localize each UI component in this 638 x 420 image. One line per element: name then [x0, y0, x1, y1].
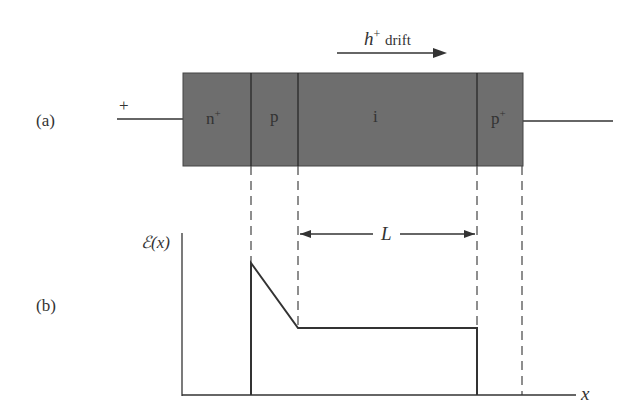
y-axis-label: ℰ(x)	[141, 232, 170, 253]
region-n-plus: n+	[206, 107, 221, 129]
field-profile	[251, 263, 477, 395]
x-axis-label: x	[581, 383, 589, 405]
drift-label: h+ drift	[364, 27, 411, 50]
drift-arrowhead-icon	[433, 48, 447, 58]
diagram-canvas	[0, 0, 638, 420]
region-p-plus: p+	[491, 107, 506, 129]
drift-word: drift	[385, 32, 411, 48]
hole-symbol: h	[364, 28, 374, 49]
hole-charge-sup: +	[374, 27, 381, 41]
region-i: i	[373, 107, 378, 127]
projection-lines	[251, 166, 522, 395]
region-p: p	[270, 107, 279, 127]
right-arrowhead-icon	[464, 230, 475, 238]
panel-a-label: (a)	[36, 111, 55, 131]
positive-terminal-label: +	[119, 96, 129, 116]
panel-b-label: (b)	[36, 296, 56, 316]
left-arrowhead-icon	[300, 230, 311, 238]
device-body	[183, 73, 523, 166]
length-label: L	[381, 223, 392, 245]
